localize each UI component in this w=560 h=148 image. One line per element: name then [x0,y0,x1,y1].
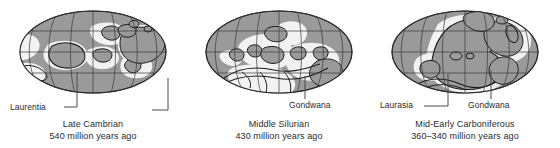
caption-mid-early-carboniferous: Mid-Early Carboniferous 360–340 million … [372,118,558,142]
caption-age: 430 million years ago [186,130,372,142]
caption-middle-silurian: Middle Silurian 430 million years ago [186,118,372,142]
paleogeography-figure: Laurentia Late Cambrian 540 million year… [0,0,560,148]
map-label-gondwana: Gondwana [468,100,510,110]
caption-epoch: Mid-Early Carboniferous [372,118,558,130]
map-label-laurentia: Laurentia [10,102,46,112]
caption-late-cambrian: Late Cambrian 540 million years ago [0,118,186,142]
globe-map-late-cambrian [8,6,178,98]
map-panel-mid-early-carboniferous: Laurasia Gondwana Mid-Early Carboniferou… [372,0,558,148]
globe-map-middle-silurian [194,6,364,98]
globe-map-mid-early-carboniferous [380,6,550,98]
map-label-gondwana: Gondwana [289,100,331,110]
caption-age: 540 million years ago [0,130,186,142]
map-label-laurasia: Laurasia [380,100,413,110]
caption-age: 360–340 million years ago [372,130,558,142]
map-panel-late-cambrian: Laurentia Late Cambrian 540 million year… [0,0,186,148]
map-panel-middle-silurian: Gondwana Middle Silurian 430 million yea… [186,0,372,148]
caption-epoch: Middle Silurian [186,118,372,130]
caption-epoch: Late Cambrian [0,118,186,130]
